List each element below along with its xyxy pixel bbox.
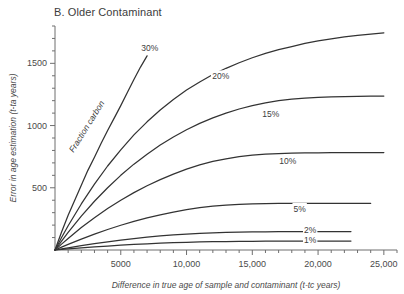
curve-label-30pct: 30% (141, 43, 158, 53)
page-title: B. Older Contaminant (54, 6, 162, 18)
annotation-fraction-carbon: Fraction carbon (67, 99, 107, 155)
figure-container: B. Older Contaminant 500010,00015,00020,… (0, 0, 404, 294)
curve-label-20pct: 20% (212, 71, 229, 81)
series-curve-15pct (55, 96, 384, 250)
y-tick-label: 1000 (27, 121, 47, 131)
y-tick-label: 500 (32, 183, 47, 193)
axis-frame (55, 26, 397, 250)
series-curve-30pct (55, 56, 147, 250)
y-axis-title: Error in age estimation (t-ta years) (8, 73, 18, 202)
x-tick-label: 20,000 (304, 259, 332, 269)
series-curve-10pct (55, 153, 384, 250)
curve-label-10pct: 10% (279, 156, 296, 166)
x-tick-label: 10,000 (173, 259, 201, 269)
axis-titles-group: Difference in true age of sample and con… (8, 73, 340, 290)
annotations-group: Fraction carbon (67, 99, 107, 155)
x-tick-label: 5000 (111, 259, 131, 269)
y-tick-label: 1500 (27, 58, 47, 68)
curve-label-15pct: 15% (262, 109, 279, 119)
curve-label-1pct: 1% (304, 235, 317, 245)
curve-label-5pct: 5% (294, 204, 307, 214)
x-tick-label: 25,000 (370, 259, 398, 269)
curves-group (55, 33, 384, 250)
x-axis-title: Difference in true age of sample and con… (112, 280, 341, 290)
curve-label-2pct: 2% (304, 225, 317, 235)
curve-labels-group: 30%20%15%10%5%2%1% (140, 42, 317, 245)
x-tick-label: 15,000 (239, 259, 267, 269)
series-curve-20pct (55, 33, 384, 250)
chart-canvas: 500010,00015,00020,00025,00050010001500 … (0, 0, 404, 294)
